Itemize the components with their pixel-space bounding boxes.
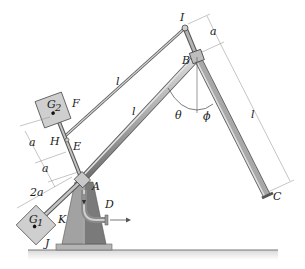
label-b: B bbox=[181, 54, 190, 67]
label-l-bc: l bbox=[251, 108, 255, 121]
label-g1-sub: 1 bbox=[37, 217, 43, 228]
label-j: J bbox=[43, 237, 50, 250]
label-a: A bbox=[91, 180, 100, 193]
label-i: I bbox=[179, 11, 185, 24]
bar-bc bbox=[195, 57, 273, 198]
ground bbox=[28, 250, 278, 260]
label-d: D bbox=[104, 198, 114, 211]
joint-e bbox=[65, 138, 69, 142]
label-e: E bbox=[72, 140, 81, 153]
label-2a-lower: 2a bbox=[29, 186, 44, 199]
label-a-middle: a bbox=[42, 162, 49, 175]
label-l-ih: l bbox=[116, 75, 120, 88]
label-g2-sub: 2 bbox=[54, 102, 61, 113]
dimension-right bbox=[188, 14, 294, 192]
label-phi: ϕ bbox=[203, 110, 211, 123]
label-a-upper: a bbox=[29, 136, 36, 149]
diagram-canvas: I B A C D E F H J K G 1 G 2 l l l a a a … bbox=[0, 0, 305, 269]
label-c: C bbox=[273, 190, 282, 203]
mechanism-diagram: I B A C D E F H J K G 1 G 2 l l l a a a … bbox=[0, 0, 305, 269]
label-theta: θ bbox=[175, 109, 182, 122]
label-f: F bbox=[71, 97, 80, 110]
label-a-ib: a bbox=[210, 25, 217, 38]
label-h: H bbox=[49, 135, 60, 148]
joint-i bbox=[182, 25, 188, 31]
label-k: K bbox=[57, 213, 67, 226]
bar-ih bbox=[64, 28, 185, 137]
label-l-ab: l bbox=[132, 105, 136, 118]
